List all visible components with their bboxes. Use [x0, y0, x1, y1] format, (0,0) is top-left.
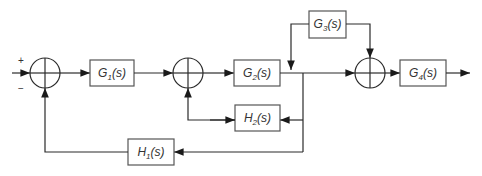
svg-text:G1(s): G1(s)	[98, 66, 126, 82]
block-g4: G4(s)	[400, 60, 446, 86]
svg-text:H2(s): H2(s)	[244, 111, 271, 127]
block-g1: G1(s)	[90, 60, 134, 86]
h2-to-s2-line	[188, 88, 235, 120]
minus-sign: −	[18, 83, 24, 94]
block-g3: G3(s)	[309, 11, 346, 38]
block-g2: G2(s)	[234, 60, 280, 86]
block-h2: H2(s)	[235, 105, 280, 131]
svg-text:G3(s): G3(s)	[314, 17, 342, 33]
summing-junction-1	[30, 58, 60, 88]
g3-to-s3-line	[346, 24, 370, 58]
h1-to-s1-line	[45, 88, 128, 152]
svg-text:G2(s): G2(s)	[243, 66, 271, 82]
svg-text:G4(s): G4(s)	[409, 66, 437, 82]
g3-to-g2-output-line	[291, 24, 309, 70]
block-h1: H1(s)	[128, 139, 174, 165]
block-diagram: + − G1(s) G2(s) G3(s) H2(s)	[0, 0, 482, 176]
plus-sign: +	[18, 55, 24, 66]
svg-text:H1(s): H1(s)	[137, 145, 164, 161]
summing-junction-2	[173, 58, 203, 88]
summing-junction-3	[355, 58, 385, 88]
